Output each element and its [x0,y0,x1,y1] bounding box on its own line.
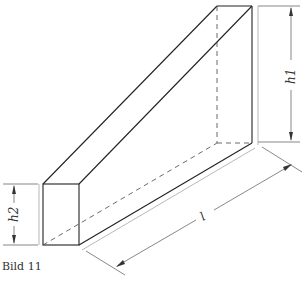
label-h2: h2 [7,207,21,222]
front-face [43,184,79,245]
label-h1: h1 [284,69,298,84]
label-l: l [198,209,208,223]
visible-edges [43,6,252,245]
hidden-edges [43,6,252,245]
prism-diagram: h1 h2 l [0,0,305,282]
dimension-l [82,147,302,275]
figure-caption: Bild 11 [2,260,42,273]
